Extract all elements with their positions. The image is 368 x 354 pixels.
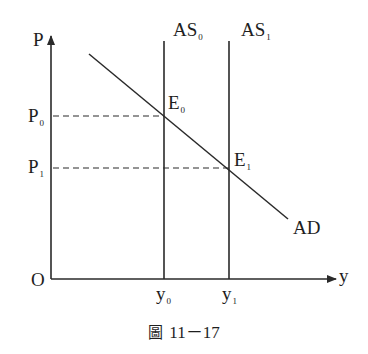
- as0-label: AS0: [173, 20, 203, 39]
- y1-label: y1: [222, 284, 237, 303]
- e0-label: E0: [168, 93, 185, 112]
- output-axis-label: y: [339, 266, 349, 285]
- as1-label: AS1: [241, 20, 271, 39]
- ad-as-diagram: [0, 0, 368, 354]
- caption-prefix: 圖: [148, 324, 163, 342]
- ad-label: AD: [293, 218, 320, 237]
- price-axis-label: P: [33, 30, 44, 49]
- e1-label: E1: [234, 150, 251, 169]
- y0-label: y0: [156, 284, 171, 303]
- caption-number: 11－17: [169, 323, 219, 342]
- p0-label: P0: [28, 106, 44, 125]
- origin-label: O: [31, 270, 45, 289]
- figure-caption: 圖11－17: [0, 318, 368, 343]
- ad-curve: [89, 54, 288, 219]
- p1-label: P1: [28, 157, 44, 176]
